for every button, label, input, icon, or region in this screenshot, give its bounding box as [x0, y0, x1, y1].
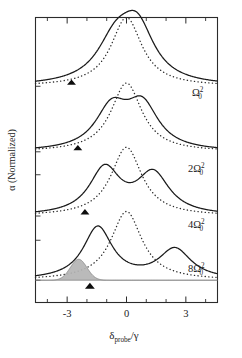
x-tick-label: -3: [63, 308, 72, 319]
figure-container: -303 Ω202Ω204Ω208Ω20 δprobe/γ α (Normali…: [0, 0, 242, 358]
x-axis-top-ticks: [47, 18, 205, 24]
x-axis-title: δprobe/γ: [109, 329, 139, 344]
x-axis-title-divisor: /γ: [131, 329, 139, 341]
x-axis-title-subscript: probe: [114, 336, 130, 344]
series-label-subscript: 0: [198, 93, 202, 101]
x-tick-label: 0: [124, 308, 129, 319]
reference-curve: [36, 147, 218, 213]
y-axis-title-text: α (Normalized): [6, 129, 18, 191]
reference-curve: [36, 18, 218, 84]
y-axis-title: α (Normalized): [6, 129, 18, 191]
series-label: 4Ω20: [188, 218, 205, 233]
triangle-marker: [85, 283, 95, 289]
y-axis-ticks: [36, 86, 41, 280]
triangle-marker: [73, 145, 82, 150]
spectra-plot: -303 Ω202Ω204Ω208Ω20 δprobe/γ α (Normali…: [0, 0, 242, 358]
reference-curve: [36, 83, 218, 149]
triangle-marker: [81, 209, 90, 214]
x-axis-major-ticks: [67, 297, 186, 303]
spectrum-curve: [36, 96, 218, 148]
series-label-subscript: 0: [199, 269, 203, 277]
svg-text:δprobe/γ: δprobe/γ: [109, 329, 139, 344]
series-label: Ω20: [192, 86, 204, 101]
series-label-subscript: 0: [199, 169, 203, 177]
series-label: 2Ω20: [188, 162, 205, 177]
series-label-subscript: 0: [199, 225, 203, 233]
curve-group: [36, 10, 218, 280]
x-axis-tick-labels: -303: [63, 308, 189, 319]
x-tick-label: 3: [183, 308, 188, 319]
series-label-group: Ω202Ω204Ω208Ω20: [188, 86, 205, 277]
